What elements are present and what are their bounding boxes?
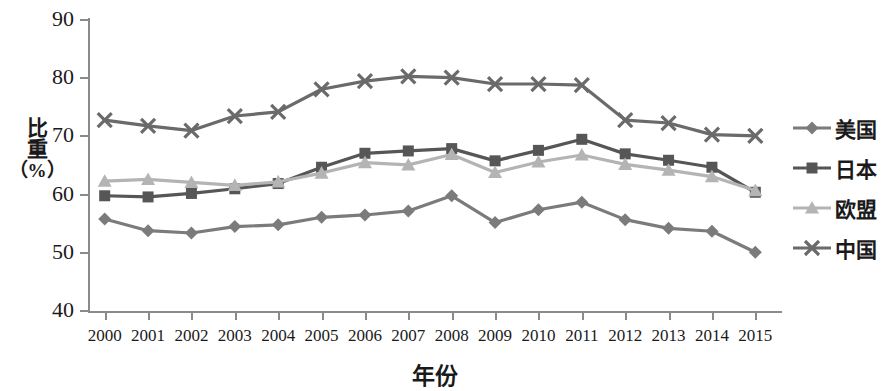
x-axis-label: 2015 — [728, 326, 782, 346]
chart-legend: 美国日本欧盟中国 — [792, 108, 885, 268]
legend-label: 美国 — [835, 113, 877, 143]
legend-item-欧盟[interactable]: 欧盟 — [792, 188, 885, 228]
series-美国 — [98, 189, 762, 258]
legend-marker-square-icon — [792, 157, 832, 179]
legend-label: 中国 — [835, 233, 877, 263]
y-axis-tick — [80, 77, 88, 79]
legend-label: 欧盟 — [835, 193, 877, 223]
y-axis-label: 80 — [28, 66, 74, 88]
legend-label: 日本 — [835, 153, 877, 183]
y-axis-tick — [80, 194, 88, 196]
legend-item-中国[interactable]: 中国 — [792, 228, 885, 268]
y-axis-label: 40 — [28, 299, 74, 321]
y-axis-label: 60 — [28, 183, 74, 205]
legend-marker-triangle-icon — [792, 197, 832, 219]
series-中国 — [98, 69, 763, 142]
y-axis-label: 50 — [28, 241, 74, 263]
y-axis-title-line-3: （%） — [6, 161, 68, 180]
plot-area: 405060708090 200020012002200320042005200… — [88, 18, 782, 313]
y-axis-tick — [80, 135, 88, 137]
series-lines — [88, 18, 782, 313]
legend-marker-diamond-icon — [792, 117, 832, 139]
y-axis-tick — [80, 310, 88, 312]
legend-marker-cross-icon — [792, 237, 832, 259]
y-axis-label: 70 — [28, 124, 74, 146]
y-axis-tick — [80, 252, 88, 254]
series-欧盟 — [98, 147, 763, 196]
x-axis-title: 年份 — [88, 357, 782, 391]
legend-item-日本[interactable]: 日本 — [792, 148, 885, 188]
y-axis-tick — [80, 19, 88, 21]
legend-item-美国[interactable]: 美国 — [792, 108, 885, 148]
y-axis-label: 90 — [28, 8, 74, 30]
